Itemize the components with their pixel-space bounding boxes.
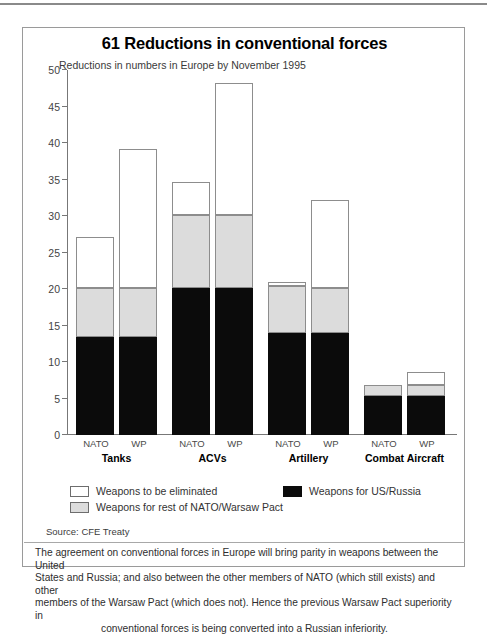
chart-title: 61 Reductions in conventional forces xyxy=(23,34,466,53)
x-sublabel-wp: WP xyxy=(216,438,254,449)
segment-rest xyxy=(407,385,445,395)
chart-legend: Weapons to be eliminated Weapons for US/… xyxy=(70,485,460,515)
legend-item-us-russia: Weapons for US/Russia xyxy=(283,485,421,497)
chart-panel: 61 Reductions in conventional forces Red… xyxy=(22,27,465,567)
segment-eliminated xyxy=(119,149,157,288)
segment-us-russia xyxy=(311,333,349,435)
legend-label-eliminated: Weapons to be eliminated xyxy=(96,485,217,497)
x-sublabel-wp: WP xyxy=(120,438,158,449)
x-sublabel-nato: NATO xyxy=(77,438,115,449)
y-tick-label: 25 xyxy=(48,247,60,259)
x-group-label-acvs: ACVs xyxy=(162,452,263,464)
segment-rest xyxy=(364,385,402,395)
caption-line-2: States and Russia; and also between the … xyxy=(35,572,454,597)
segment-us-russia xyxy=(407,396,445,435)
legend-label-us-russia: Weapons for US/Russia xyxy=(309,485,421,497)
segment-us-russia xyxy=(172,288,210,435)
y-tick-mark xyxy=(62,434,67,435)
segment-rest xyxy=(268,286,306,333)
y-tick-label: 10 xyxy=(48,356,60,368)
legend-label-rest: Weapons for rest of NATO/Warsaw Pact xyxy=(96,501,283,513)
legend-swatch-gray-icon xyxy=(70,502,89,513)
segment-us-russia xyxy=(268,333,306,435)
legend-item-rest: Weapons for rest of NATO/Warsaw Pact xyxy=(70,501,283,513)
caption-divider xyxy=(24,542,465,543)
segment-us-russia xyxy=(119,337,157,435)
page-top-rule xyxy=(0,3,487,5)
y-tick-mark xyxy=(62,69,67,70)
segment-eliminated xyxy=(311,200,349,288)
legend-swatch-black-icon xyxy=(283,486,302,497)
y-tick-mark xyxy=(62,142,67,143)
x-sublabel-wp: WP xyxy=(408,438,446,449)
plot-area: 05101520253035404550 xyxy=(67,70,457,435)
y-tick-label: 35 xyxy=(48,174,60,186)
y-tick-mark xyxy=(62,398,67,399)
segment-rest xyxy=(119,288,157,338)
y-tick-mark xyxy=(62,325,67,326)
segment-rest xyxy=(311,288,349,333)
segment-eliminated xyxy=(76,237,114,287)
segment-eliminated xyxy=(407,372,445,386)
chart-caption: The agreement on conventional forces in … xyxy=(35,547,454,635)
y-tick-label: 20 xyxy=(48,283,60,295)
x-sublabel-wp: WP xyxy=(312,438,350,449)
x-sublabel-nato: NATO xyxy=(173,438,211,449)
legend-swatch-white-icon xyxy=(70,486,89,497)
x-group-label-tanks: Tanks xyxy=(66,452,167,464)
legend-item-eliminated: Weapons to be eliminated xyxy=(70,485,217,497)
x-axis-labels: NATOWPTanksNATOWPACVsNATOWPArtilleryNATO… xyxy=(68,438,458,472)
segment-eliminated xyxy=(268,282,306,286)
caption-line-1: The agreement on conventional forces in … xyxy=(35,547,454,572)
y-tick-label: 50 xyxy=(48,64,60,76)
y-tick-label: 45 xyxy=(48,101,60,113)
caption-line-4: conventional forces is being converted i… xyxy=(35,623,454,635)
y-tick-mark xyxy=(62,252,67,253)
y-tick-label: 0 xyxy=(54,429,60,441)
segment-us-russia xyxy=(364,396,402,435)
segment-us-russia xyxy=(215,288,253,435)
x-group-label-combat-aircraft: Combat Aircraft xyxy=(354,452,455,464)
y-tick-label: 40 xyxy=(48,137,60,149)
y-tick-mark xyxy=(62,106,67,107)
segment-rest xyxy=(215,215,253,288)
y-tick-label: 30 xyxy=(48,210,60,222)
x-sublabel-nato: NATO xyxy=(269,438,307,449)
segment-rest xyxy=(172,215,210,288)
y-tick-mark xyxy=(62,288,67,289)
y-tick-mark xyxy=(62,361,67,362)
y-tick-label: 15 xyxy=(48,320,60,332)
chart-source: Source: CFE Treaty xyxy=(46,526,129,537)
segment-eliminated xyxy=(172,182,210,215)
y-tick-label: 5 xyxy=(54,393,60,405)
caption-line-3: members of the Warsaw Pact (which does n… xyxy=(35,597,454,622)
x-group-label-artillery: Artillery xyxy=(258,452,359,464)
x-sublabel-nato: NATO xyxy=(365,438,403,449)
bar-series-container xyxy=(68,70,457,435)
y-tick-mark xyxy=(62,179,67,180)
segment-eliminated xyxy=(215,83,253,214)
y-tick-mark xyxy=(62,215,67,216)
segment-us-russia xyxy=(76,337,114,435)
segment-rest xyxy=(76,288,114,338)
